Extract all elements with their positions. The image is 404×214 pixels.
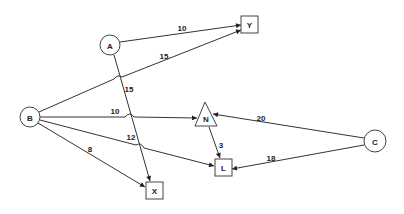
node-label-y: Y [247, 21, 253, 30]
edge-label-b-n: 10 [111, 107, 120, 116]
edge-n-l: 3 [209, 127, 224, 158]
node-label-l: L [221, 164, 226, 173]
node-label-b: B [27, 114, 33, 123]
node-label-n: N [203, 115, 209, 124]
edge-a-y: 10 [120, 24, 241, 42]
edges: 10 15 15 10 12 8 3 [38, 24, 364, 187]
edge-a-x: 15 [114, 55, 150, 181]
node-x[interactable]: X [146, 182, 163, 199]
edge-b-n: 10 [40, 107, 197, 118]
node-b[interactable]: B [20, 107, 40, 127]
edge-b-y: 15 [39, 30, 241, 112]
edge-c-n: 20 [213, 114, 364, 138]
edge-label-b-l: 12 [127, 133, 136, 142]
edge-label-c-n: 20 [257, 114, 266, 123]
nodes: A Y B N C L X [20, 16, 386, 199]
edge-label-a-y: 10 [178, 24, 187, 33]
node-y[interactable]: Y [241, 16, 258, 33]
edge-b-l: 12 [40, 120, 214, 166]
node-a[interactable]: A [100, 35, 120, 55]
edge-label-b-x: 8 [88, 145, 93, 154]
edge-label-c-l: 18 [267, 154, 276, 163]
edge-label-n-l: 3 [219, 141, 224, 150]
node-label-a: A [107, 42, 113, 51]
edge-label-b-y: 15 [160, 52, 169, 61]
node-label-c: C [372, 138, 378, 147]
node-c[interactable]: C [364, 130, 386, 152]
edge-label-a-x: 15 [125, 85, 134, 94]
node-label-x: X [152, 187, 158, 196]
node-l[interactable]: L [215, 159, 232, 176]
edge-c-l: 18 [232, 145, 364, 169]
network-diagram: 10 15 15 10 12 8 3 [0, 0, 404, 214]
